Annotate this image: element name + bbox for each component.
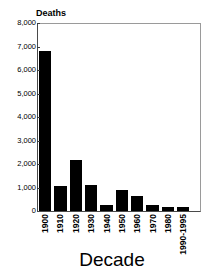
x-tick-label: 1940	[102, 214, 111, 233]
bar	[54, 186, 66, 211]
bar	[70, 160, 82, 211]
x-tick-label: 1910	[56, 214, 65, 233]
bar-chart: Deaths 8,0007,0006,0005,0004,0003,0002,0…	[0, 0, 216, 279]
bar	[146, 205, 158, 211]
x-tick-label: 1960	[133, 214, 142, 233]
bar-slot	[116, 23, 128, 211]
bar	[162, 207, 174, 211]
x-label-slot: 1990-1995	[177, 214, 189, 276]
x-tick-label: 1990-1995	[179, 214, 188, 255]
x-axis-title: Decade	[60, 249, 164, 271]
bar-slot	[85, 23, 97, 211]
y-axis-title: Deaths	[36, 8, 66, 19]
bar-slot	[100, 23, 112, 211]
bar-slot	[177, 23, 189, 211]
x-tick-label: 1970	[148, 214, 157, 233]
y-tick-label: 1,000	[2, 184, 36, 192]
x-label-slot: 1900	[39, 214, 51, 276]
bar	[85, 185, 97, 211]
bar	[177, 207, 189, 211]
y-axis-tick-labels: 8,0007,0006,0005,0004,0003,0002,0001,000…	[0, 23, 36, 212]
bar	[131, 196, 143, 211]
y-tick-label: 7,000	[2, 43, 36, 51]
bars-container	[38, 23, 200, 211]
bar-slot	[131, 23, 143, 211]
x-tick-label: 1980	[163, 214, 172, 233]
y-tick-mark	[37, 70, 40, 71]
bar-slot	[54, 23, 66, 211]
bar-slot	[146, 23, 158, 211]
y-tick-mark	[37, 23, 40, 24]
y-tick-label: 2,000	[2, 160, 36, 168]
y-tick-mark	[37, 188, 40, 189]
bar-slot	[70, 23, 82, 211]
y-tick-label: 0	[2, 207, 36, 215]
bar	[39, 51, 51, 211]
y-tick-label: 4,000	[2, 113, 36, 121]
x-tick-label: 1920	[71, 214, 80, 233]
y-tick-label: 8,000	[2, 19, 36, 27]
bar	[116, 190, 128, 211]
bar	[100, 205, 112, 211]
y-tick-mark	[37, 164, 40, 165]
x-tick-label: 1930	[87, 214, 96, 233]
bar-slot	[162, 23, 174, 211]
y-tick-mark	[37, 94, 40, 95]
y-tick-label: 6,000	[2, 66, 36, 74]
y-tick-mark	[37, 117, 40, 118]
y-tick-label: 3,000	[2, 137, 36, 145]
x-tick-label: 1900	[41, 214, 50, 233]
y-tick-mark	[37, 47, 40, 48]
y-tick-mark	[37, 141, 40, 142]
bar-slot	[39, 23, 51, 211]
x-tick-label: 1950	[117, 214, 126, 233]
y-tick-label: 5,000	[2, 90, 36, 98]
